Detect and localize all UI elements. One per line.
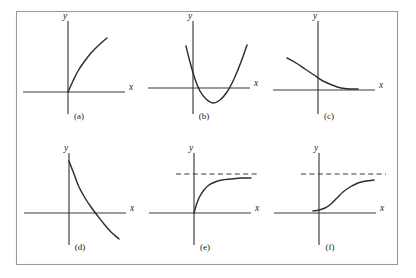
panel-d-y-axis-label: y: [63, 143, 69, 153]
panel-a-y-axis-label: y: [62, 11, 68, 21]
panel-c-y-axis-label: y: [312, 11, 318, 21]
panel-a-caption: (a): [74, 111, 84, 121]
panel-f-x-axis-label: x: [379, 203, 385, 213]
panel-e-y-axis-label: y: [188, 143, 194, 153]
panel-c-caption: (c): [324, 111, 334, 121]
panel-b-x-axis-label: x: [253, 78, 259, 88]
panel-e-caption: (e): [200, 242, 210, 252]
panel-f-caption: (f): [326, 242, 335, 252]
figure-svg: xy(a)xy(b)xy(c)xy(d)xy(e)xy(f): [0, 0, 416, 278]
panel-b-y-axis-label: y: [187, 11, 193, 21]
panel-d-x-axis-label: x: [129, 203, 135, 213]
panel-e-x-axis-label: x: [254, 203, 260, 213]
panel-f-y-axis-label: y: [313, 143, 319, 153]
panel-c-x-axis-label: x: [378, 80, 384, 90]
figure-background: [0, 0, 416, 278]
figure-container: xy(a)xy(b)xy(c)xy(d)xy(e)xy(f): [0, 0, 416, 278]
panel-a-x-axis-label: x: [128, 82, 134, 92]
panel-d-caption: (d): [75, 242, 86, 252]
panel-b-caption: (b): [199, 111, 210, 121]
